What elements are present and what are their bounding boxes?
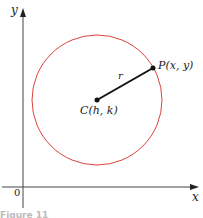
radius-segment — [97, 68, 153, 100]
x-axis-label: x — [192, 190, 199, 204]
figure-caption: Figure 11 — [0, 210, 48, 218]
origin-label: 0 — [14, 187, 20, 198]
center-point — [95, 98, 100, 103]
radius-label: r — [118, 70, 123, 81]
center-label: C(h, k) — [80, 104, 118, 117]
y-axis-arrow-icon — [20, 8, 26, 17]
point-p-label: P(x, y) — [158, 59, 193, 72]
point-p — [151, 66, 156, 71]
y-axis-label: y — [11, 3, 18, 17]
